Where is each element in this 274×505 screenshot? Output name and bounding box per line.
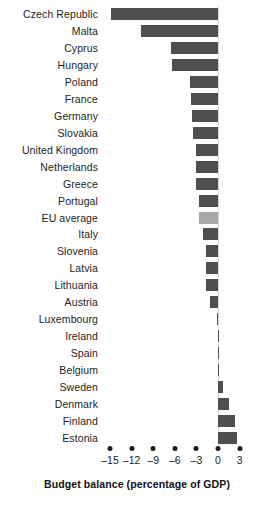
- category-label: Hungary: [58, 60, 98, 71]
- x-axis-tick-label: –12: [123, 455, 141, 466]
- bar-row: Slovakia: [0, 124, 274, 141]
- bar: [196, 144, 218, 156]
- bar-row: Austria: [0, 294, 274, 311]
- category-label: France: [65, 94, 98, 105]
- category-label: Luxembourg: [39, 314, 98, 325]
- category-label: Finland: [63, 415, 98, 426]
- x-axis-tick-dot: [108, 446, 113, 451]
- bar-row: Estonia: [0, 429, 274, 446]
- x-axis-tick-dot: [194, 446, 199, 451]
- bar: [191, 93, 218, 105]
- bar-row: Lithuania: [0, 277, 274, 294]
- bar-row: Czech Republic: [0, 6, 274, 23]
- category-label: Italy: [78, 229, 98, 240]
- category-label: Spain: [71, 348, 98, 359]
- x-axis: –15–12–9–6–303: [0, 446, 274, 476]
- bar: [141, 25, 218, 37]
- bar-row: Latvia: [0, 260, 274, 277]
- bar: [218, 415, 235, 427]
- x-axis-tick-dot: [172, 446, 177, 451]
- bar: [206, 279, 218, 291]
- x-axis-tick-label: 3: [237, 455, 243, 466]
- category-label: Netherlands: [40, 162, 98, 173]
- bar-row: Finland: [0, 412, 274, 429]
- bar: [199, 195, 218, 207]
- bar: [193, 127, 218, 139]
- category-label: Portugal: [58, 195, 98, 206]
- category-label: Greece: [63, 178, 98, 189]
- bar: [203, 228, 218, 240]
- bar: [218, 381, 223, 393]
- category-label: Belgium: [59, 365, 98, 376]
- category-label: Lithuania: [54, 280, 98, 291]
- category-label: Slovenia: [57, 246, 98, 257]
- bar-row: Poland: [0, 74, 274, 91]
- x-axis-tick-dot: [129, 446, 134, 451]
- bar: [218, 398, 229, 410]
- category-label: EU average: [42, 212, 98, 223]
- x-axis-tick-label: –3: [191, 455, 203, 466]
- category-label: Czech Republic: [23, 9, 98, 20]
- bar: [218, 330, 219, 342]
- x-axis-tick-label: –9: [147, 455, 159, 466]
- category-label: Poland: [65, 77, 98, 88]
- bar: [199, 212, 218, 224]
- x-axis-tick-label: –15: [101, 455, 119, 466]
- bar: [111, 8, 218, 20]
- bar: [217, 313, 218, 325]
- category-label: Slovakia: [58, 128, 99, 139]
- bar: [206, 245, 218, 257]
- bar-row: Netherlands: [0, 158, 274, 175]
- bar-row: Slovenia: [0, 243, 274, 260]
- bar: [218, 432, 237, 444]
- bar-row: United Kingdom: [0, 141, 274, 158]
- bar-row: Malta: [0, 23, 274, 40]
- category-label: Germany: [54, 111, 98, 122]
- bar: [172, 59, 218, 71]
- category-label: Estonia: [62, 432, 98, 443]
- bar: [192, 110, 218, 122]
- bar: [196, 161, 218, 173]
- bar: [218, 364, 219, 376]
- x-axis-tick-dot: [151, 446, 156, 451]
- bar-row: Hungary: [0, 57, 274, 74]
- bar: [190, 76, 218, 88]
- bar-row: Greece: [0, 175, 274, 192]
- bar-row: Belgium: [0, 361, 274, 378]
- category-label: Austria: [65, 297, 98, 308]
- x-axis-title: Budget balance (percentage of GDP): [0, 478, 274, 490]
- budget-balance-bar-chart: Czech RepublicMaltaCyprusHungaryPolandFr…: [0, 0, 274, 505]
- bar-row: Cyprus: [0, 40, 274, 57]
- bar-row: EU average: [0, 209, 274, 226]
- plot-area: Czech RepublicMaltaCyprusHungaryPolandFr…: [0, 6, 274, 446]
- bar: [218, 347, 219, 359]
- bar-row: Denmark: [0, 395, 274, 412]
- bar-row: France: [0, 91, 274, 108]
- category-label: United Kingdom: [22, 145, 98, 156]
- bar: [196, 178, 218, 190]
- bar: [206, 262, 218, 274]
- x-axis-tick-label: –6: [169, 455, 181, 466]
- bar-row: Germany: [0, 108, 274, 125]
- bar-row: Spain: [0, 344, 274, 361]
- bar-row: Portugal: [0, 192, 274, 209]
- category-label: Malta: [72, 26, 98, 37]
- bar-row: Luxembourg: [0, 311, 274, 328]
- category-label: Cyprus: [64, 43, 98, 54]
- x-axis-tick-label: 0: [215, 455, 221, 466]
- category-label: Sweden: [59, 381, 98, 392]
- bar-row: Italy: [0, 226, 274, 243]
- bar-row: Ireland: [0, 328, 274, 345]
- bar-row: Sweden: [0, 378, 274, 395]
- category-label: Denmark: [55, 398, 98, 409]
- category-label: Latvia: [69, 263, 98, 274]
- category-label: Ireland: [65, 331, 98, 342]
- x-axis-tick-dot: [216, 446, 221, 451]
- bar: [210, 296, 218, 308]
- x-axis-tick-dot: [237, 446, 242, 451]
- bar: [171, 42, 218, 54]
